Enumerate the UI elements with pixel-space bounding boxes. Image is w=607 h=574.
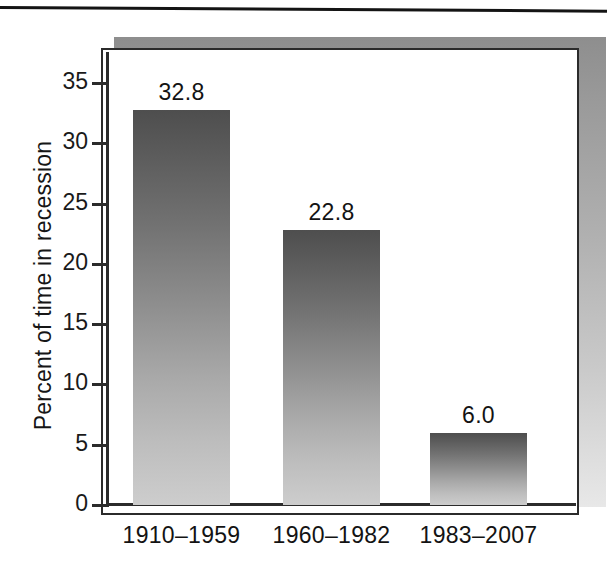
y-axis-tick bbox=[92, 82, 108, 85]
y-axis-tick bbox=[92, 504, 108, 507]
bar bbox=[430, 433, 527, 505]
bar-value-label: 32.8 bbox=[122, 79, 242, 106]
y-axis-tick-label-wrap: 0 bbox=[36, 505, 88, 506]
y-axis-tick bbox=[92, 444, 108, 447]
x-axis-category-label: 1910–1959 bbox=[97, 522, 267, 549]
y-axis-line bbox=[106, 52, 109, 507]
y-axis-tick bbox=[92, 203, 108, 206]
figure-canvas: 05101520253035 Percent of time in recess… bbox=[0, 0, 607, 574]
y-axis-tick-label: 0 bbox=[36, 490, 88, 517]
y-axis-tick-label: 35 bbox=[36, 68, 88, 95]
bar bbox=[283, 230, 380, 505]
y-axis-tick bbox=[92, 263, 108, 266]
y-axis-title: Percent of time in recession bbox=[30, 126, 57, 446]
y-axis-tick-label-wrap: 35 bbox=[36, 83, 88, 84]
x-axis-category-label: 1983–2007 bbox=[394, 522, 564, 549]
y-axis-tick bbox=[92, 323, 108, 326]
page-top-rule bbox=[0, 6, 607, 13]
y-axis-tick bbox=[92, 142, 108, 145]
bar-value-label: 6.0 bbox=[419, 402, 539, 429]
y-axis-tick bbox=[92, 383, 108, 386]
x-axis-category-label: 1960–1982 bbox=[247, 522, 417, 549]
bar bbox=[133, 110, 230, 505]
bar-value-label: 22.8 bbox=[272, 199, 392, 226]
